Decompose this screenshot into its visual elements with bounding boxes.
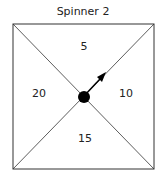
spinner-center-dot [78, 91, 90, 103]
section-label-bottom: 15 [70, 132, 100, 145]
section-label-right: 10 [111, 87, 141, 100]
section-label-left: 20 [24, 87, 54, 100]
section-label-top: 5 [69, 40, 99, 53]
